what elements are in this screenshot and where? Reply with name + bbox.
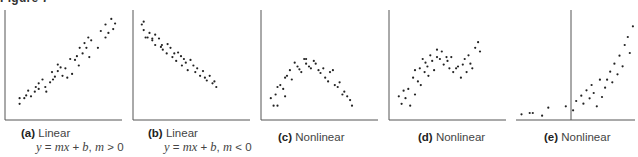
data-point: [279, 84, 281, 86]
caption-d-label: Nonlinear: [436, 131, 485, 143]
data-point: [332, 69, 334, 71]
equation-b: y = mx + b, m < 0: [164, 140, 252, 155]
data-point: [162, 49, 164, 51]
data-point: [145, 36, 147, 38]
data-point: [622, 65, 624, 67]
scatter-plot-c: [256, 0, 381, 125]
data-point: [57, 70, 59, 72]
data-point: [30, 95, 32, 97]
data-point: [192, 64, 194, 66]
data-point: [346, 95, 348, 97]
data-point: [27, 90, 29, 92]
data-point: [107, 32, 109, 34]
data-point: [322, 67, 324, 69]
panel-e: (e) Nonlinear: [512, 0, 638, 157]
data-point: [175, 60, 177, 62]
data-point: [23, 97, 25, 99]
data-point: [61, 75, 63, 77]
scatter-plot-a: [0, 0, 125, 125]
data-point: [305, 58, 307, 60]
data-point: [154, 34, 156, 36]
caption-c-label: Nonlinear: [295, 131, 344, 143]
caption-b-label: Linear: [166, 127, 198, 139]
data-point: [181, 64, 183, 66]
data-point: [41, 78, 43, 80]
panel-c: (c) Nonlinear: [256, 0, 381, 157]
data-point: [341, 93, 343, 95]
data-point: [426, 65, 428, 67]
data-point: [632, 25, 634, 27]
data-point: [97, 47, 99, 49]
data-point: [284, 77, 286, 79]
data-point: [417, 80, 419, 82]
data-point: [580, 95, 582, 97]
data-point: [180, 55, 182, 57]
data-point: [450, 56, 452, 58]
data-point: [575, 100, 577, 102]
data-point: [479, 50, 481, 52]
data-point: [215, 86, 217, 88]
data-point: [403, 90, 405, 92]
data-point: [467, 54, 469, 56]
data-point: [275, 93, 277, 95]
data-point: [414, 93, 416, 95]
data-point: [83, 42, 85, 44]
data-point: [303, 58, 305, 60]
data-point: [324, 77, 326, 79]
data-point: [194, 71, 196, 73]
data-point: [112, 28, 114, 30]
data-point: [161, 44, 163, 46]
data-point: [196, 67, 198, 69]
data-point: [327, 80, 329, 82]
data-point: [154, 44, 156, 46]
data-point: [585, 89, 587, 91]
data-point: [529, 112, 531, 114]
data-point: [541, 115, 543, 117]
caption-d: (d) Nonlinear: [418, 131, 485, 143]
data-point: [19, 103, 21, 105]
data-point: [412, 77, 414, 79]
data-point: [315, 63, 317, 65]
data-point: [79, 47, 81, 49]
data-point: [464, 58, 466, 60]
data-point: [424, 62, 426, 64]
data-point: [282, 88, 284, 90]
data-point: [629, 52, 631, 54]
panel-b: (b) Linear y = mx + b, m < 0: [128, 0, 253, 157]
scatter-plot-e: [512, 0, 638, 125]
data-point: [38, 88, 40, 90]
data-point: [599, 79, 601, 81]
data-point: [204, 77, 206, 79]
data-point: [60, 66, 62, 68]
caption-e-label: Nonlinear: [561, 131, 610, 143]
data-point: [401, 103, 403, 105]
data-point: [474, 47, 476, 49]
data-point: [35, 86, 37, 88]
data-point: [82, 52, 84, 54]
data-point: [100, 30, 102, 32]
data-point: [427, 75, 429, 77]
data-point: [85, 47, 87, 49]
data-point: [71, 73, 73, 75]
data-point: [141, 23, 143, 25]
data-point: [429, 54, 431, 56]
data-point: [34, 91, 36, 93]
data-point: [49, 81, 51, 83]
data-point: [183, 58, 185, 60]
data-point: [424, 71, 426, 73]
data-point: [334, 84, 336, 86]
data-point: [616, 73, 618, 75]
data-point: [76, 55, 78, 57]
data-point: [87, 36, 89, 38]
data-point: [351, 105, 353, 107]
data-point: [213, 80, 215, 82]
data-point: [296, 65, 298, 67]
data-point: [54, 76, 56, 78]
data-point: [462, 64, 464, 66]
data-point: [305, 63, 307, 65]
data-point: [147, 36, 149, 38]
data-point: [151, 39, 153, 41]
data-point: [110, 18, 112, 20]
data-point: [457, 65, 459, 67]
data-point: [51, 71, 53, 73]
